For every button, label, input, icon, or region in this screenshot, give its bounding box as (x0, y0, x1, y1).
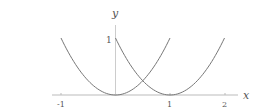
y-axis-label: y (111, 7, 119, 20)
x-tick-label-neg1: -1 (57, 100, 65, 109)
y-tick-label-1: 1 (106, 35, 112, 45)
x-axis-label: x (243, 89, 250, 102)
x-tick-label-1: 1 (167, 100, 172, 109)
x-tick-label-2: 2 (222, 100, 227, 109)
plot-canvas: y x 1 -1 1 2 (0, 0, 259, 109)
curve-x-minus-1-squared (116, 38, 225, 95)
